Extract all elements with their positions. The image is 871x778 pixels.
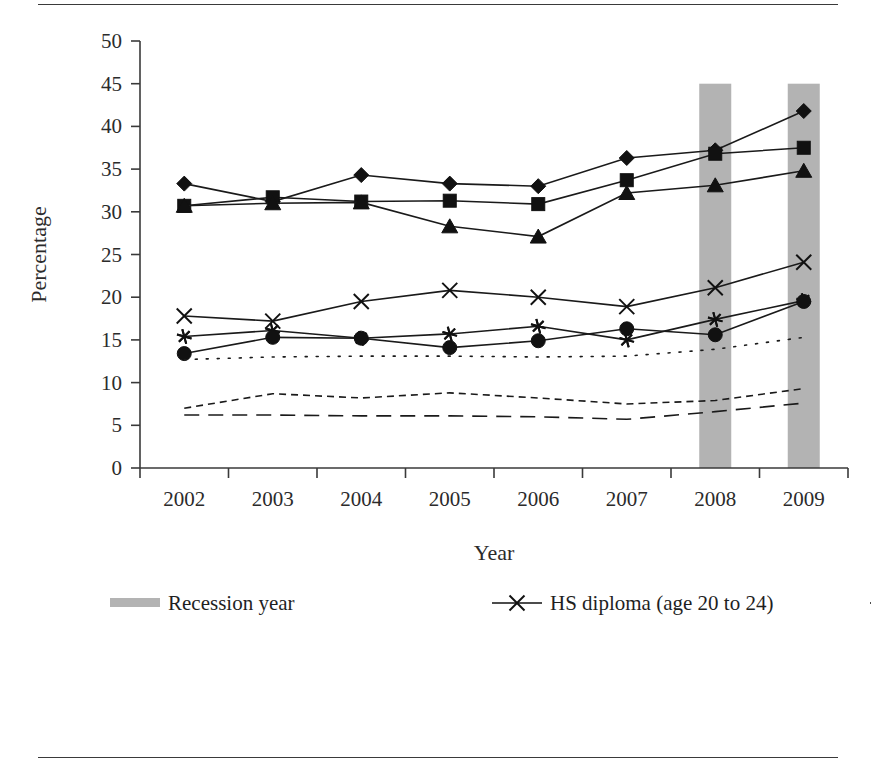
y-tick-label-35: 35: [101, 157, 122, 181]
point-5-circle-marker: [620, 322, 634, 336]
point-3-triangle-marker: [442, 219, 458, 233]
x-tick-label-2009: 2009: [783, 487, 825, 511]
chart-legend: Recession yearHS diploma (age 20 to 24)M…: [108, 588, 868, 618]
legend-label: HS diploma (age 20 to 24): [550, 592, 773, 614]
x-tick-label-2004: 2004: [340, 487, 383, 511]
x-tick-label-2003: 2003: [252, 487, 294, 511]
legend-swatch: [490, 592, 544, 614]
x-tick-label-2008: 2008: [694, 487, 736, 511]
y-tick-label-45: 45: [101, 72, 122, 96]
x-tick-label-2002: 2002: [163, 487, 205, 511]
point-3-circle-marker: [443, 341, 457, 355]
line-chart-svg: 0510152025303540455020022003200420052006…: [0, 0, 871, 560]
legend-swatch: [108, 592, 162, 614]
point-1-circle-marker: [266, 330, 280, 344]
point-0-circle-marker: [177, 347, 191, 361]
y-tick-label-0: 0: [112, 456, 123, 480]
y-tick-label-20: 20: [101, 285, 122, 309]
point-2-diamond-marker: [354, 168, 369, 183]
point-0-diamond-marker: [177, 176, 192, 191]
y-tick-label-5: 5: [112, 413, 123, 437]
point-3-square-marker: [443, 194, 456, 207]
y-tick-label-10: 10: [101, 371, 122, 395]
x-tick-label-2005: 2005: [429, 487, 471, 511]
legend-item: HS diploma (age 20 to 24): [490, 588, 868, 618]
point-3-diamond-marker: [442, 176, 457, 191]
y-tick-label-50: 50: [101, 29, 122, 53]
legend-item: Recession year: [108, 588, 490, 618]
x-axis-title: Year: [474, 540, 515, 560]
x-tick-label-2006: 2006: [517, 487, 559, 511]
y-tick-label-15: 15: [101, 328, 122, 352]
legend-label: Recession year: [168, 592, 295, 614]
figure-container: 0510152025303540455020022003200420052006…: [0, 0, 871, 778]
point-2-circle-marker: [354, 331, 368, 345]
bottom-rule-divider: [38, 757, 838, 758]
y-tick-label-40: 40: [101, 114, 122, 138]
point-6-circle-marker: [708, 328, 722, 342]
chart-plot-area: 0510152025303540455020022003200420052006…: [0, 0, 871, 560]
point-7-circle-marker: [797, 294, 811, 308]
y-axis-title: Percentage: [26, 206, 51, 303]
line-x-marker: [490, 592, 544, 614]
point-5-diamond-marker: [619, 150, 634, 165]
point-4-square-marker: [532, 198, 545, 211]
y-tick-label-30: 30: [101, 200, 122, 224]
y-tick-label-25: 25: [101, 243, 122, 267]
point-7-square-marker: [797, 141, 810, 154]
point-6-square-marker: [709, 147, 722, 160]
point-4-diamond-marker: [531, 179, 546, 194]
thick-gray-bar: [108, 592, 162, 614]
x-tick-label-2007: 2007: [606, 487, 648, 511]
point-4-circle-marker: [531, 334, 545, 348]
